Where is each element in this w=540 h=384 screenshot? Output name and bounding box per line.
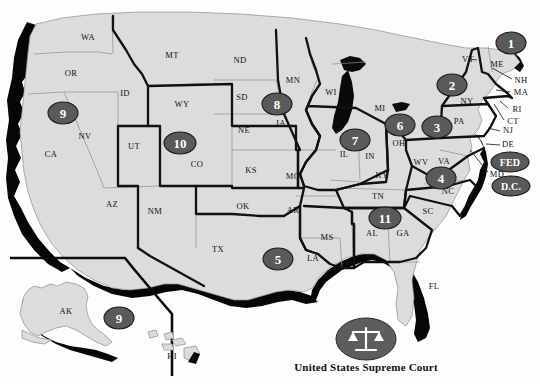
state-label-me: ME (490, 59, 503, 69)
circuit-badge-11[interactable]: 11 (369, 207, 401, 229)
state-label-co: CO (191, 159, 203, 169)
circuit-badge-dc[interactable]: D.C. (492, 176, 530, 196)
state-label-ny: NY (461, 96, 474, 106)
state-label-de: DE (502, 139, 514, 149)
state-label-oh: OH (393, 138, 406, 148)
state-label-id: ID (120, 88, 130, 98)
state-label-wi: WI (325, 87, 336, 97)
state-label-tx: TX (212, 244, 224, 254)
state-label-pa: PA (454, 116, 465, 126)
badge-label: 4 (438, 171, 445, 186)
badge-label: 7 (352, 133, 359, 148)
seal-caption: United States Supreme Court (276, 361, 456, 373)
state-label-wa: WA (81, 32, 95, 42)
badge-label: D.C. (501, 181, 522, 192)
state-label-ok: OK (237, 201, 250, 211)
state-label-fl: FL (429, 281, 440, 291)
circuit-badge-fed[interactable]: FED (491, 152, 529, 172)
state-label-va: VA (438, 156, 450, 166)
circuit-badge-3[interactable]: 3 (422, 116, 452, 138)
state-label-az: AZ (106, 199, 118, 209)
state-label-or: OR (65, 68, 77, 78)
circuit-badge-6[interactable]: 6 (385, 114, 415, 136)
state-label-nh: NH (515, 75, 528, 85)
state-label-nj: NJ (503, 125, 513, 135)
circuit-badge-8[interactable]: 8 (262, 93, 292, 115)
badge-label: 5 (275, 252, 282, 267)
state-label-sc: SC (423, 206, 434, 216)
state-label-al: AL (366, 228, 378, 238)
state-label-ca: CA (45, 149, 58, 159)
hawaii-island-4 (162, 344, 174, 350)
state-label-mi: MI (375, 103, 386, 113)
state-label-ut: UT (128, 141, 140, 151)
state-label-il: IL (340, 149, 349, 159)
state-label-nm: NM (148, 206, 162, 216)
badge-label: 11 (379, 211, 391, 226)
state-label-ak: AK (60, 306, 73, 316)
map-canvas: WAORIDMTNDSDNEWYNVUTCOCAAZNMKSOKTXMNIAMO… (0, 0, 540, 384)
hawaii-island-1 (148, 330, 158, 338)
badge-label: 8 (274, 97, 281, 112)
state-label-hi: HI (167, 351, 177, 361)
badge-label: 1 (508, 36, 515, 51)
state-label-sd: SD (236, 92, 247, 102)
circuit-map-figure: WAORIDMTNDSDNEWYNVUTCOCAAZNMKSOKTXMNIAMO… (0, 0, 540, 384)
state-label-nd: ND (234, 55, 247, 65)
state-label-wv: WV (414, 157, 429, 167)
state-label-vt: VT (462, 54, 474, 64)
state-label-mt: MT (165, 50, 179, 60)
state-label-ne: NE (238, 125, 250, 135)
state-label-wy: WY (175, 99, 190, 109)
circuit-badge-9[interactable]: 9 (104, 307, 134, 329)
circuit-badge-7[interactable]: 7 (340, 129, 370, 151)
state-label-ri: RI (512, 104, 521, 114)
circuit-badge-10[interactable]: 10 (164, 132, 196, 154)
state-label-mo: MO (286, 171, 300, 181)
badge-label: 3 (434, 120, 441, 135)
state-label-in: IN (365, 151, 375, 161)
badge-label: 10 (174, 136, 187, 151)
alaska-group (20, 282, 118, 362)
circuit-badge-5[interactable]: 5 (263, 248, 293, 270)
badge-label: 9 (116, 311, 123, 326)
circuit-badge-1[interactable]: 1 (496, 32, 526, 54)
state-label-ga: GA (397, 228, 410, 238)
state-label-la: LA (307, 253, 319, 263)
circuit-badge-9[interactable]: 9 (48, 102, 78, 124)
circuit-badge-4[interactable]: 4 (426, 167, 456, 189)
state-label-mn: MN (286, 75, 300, 85)
state-label-ms: MS (321, 232, 334, 242)
state-label-ar: AR (287, 205, 299, 215)
state-label-ks: KS (245, 165, 256, 175)
state-label-ky: KY (376, 170, 389, 180)
state-label-ia: IA (276, 118, 286, 128)
badge-label: FED (500, 157, 521, 168)
badge-label: 6 (397, 118, 404, 133)
badge-label: 2 (449, 78, 456, 93)
circuit-badge-2[interactable]: 2 (437, 74, 467, 96)
state-label-tn: TN (372, 191, 384, 201)
state-label-ma: MA (514, 87, 529, 97)
leader-de (486, 144, 500, 145)
leader-ri (500, 101, 508, 108)
state-label-nv: NV (79, 131, 92, 141)
supreme-court-seal (336, 318, 396, 360)
badge-label: 9 (60, 106, 67, 121)
hawaii-island-3 (172, 338, 186, 346)
